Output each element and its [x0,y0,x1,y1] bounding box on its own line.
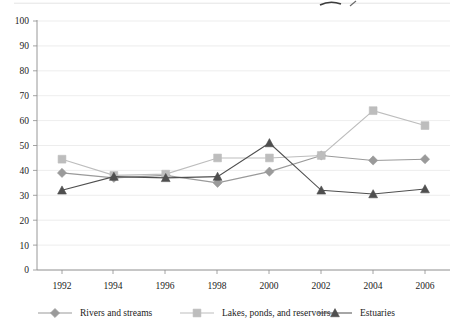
y-tick-label: 0 [24,265,29,275]
y-tick-label: 90 [20,41,30,51]
data-point-marker: Lakes, ponds, and reservoirs 2000: 45 [266,154,274,162]
y-tick-label: 40 [20,166,30,176]
x-tickmarks [62,270,425,274]
data-point-marker: Rivers and streams 1992: 39 [57,168,66,177]
x-tick-label: 1994 [104,281,123,291]
data-point-marker: Rivers and streams 2004: 44 [369,156,378,165]
y-gridlines [37,21,450,270]
y-tick-label: 80 [20,66,30,76]
data-point-marker: Estuaries 2006: 32.5 [421,185,430,193]
y-tick-label: 10 [20,241,30,251]
chart-container: 100 90 80 70 60 50 40 30 20 10 0 1992 19 [0,0,458,327]
data-point-marker: Lakes, ponds, and reservoirs 1992: 44.5 [58,155,66,163]
cropped-top-artifact [0,0,458,8]
x-tick-label: 2004 [364,281,383,291]
y-tickmarks [33,21,37,270]
series-rivers-and-streams: Rivers and streams 1992: 39Rivers and st… [57,151,429,188]
x-tick-label: 1996 [156,281,175,291]
x-tick-label: 1998 [208,281,227,291]
data-point-marker: Lakes, ponds, and reservoirs 1998: 45 [214,154,222,162]
data-point-marker: Lakes, ponds, and reservoirs 2006: 58 [421,122,429,130]
y-tick-label: 70 [20,91,30,101]
x-tick-label: 1992 [53,281,72,291]
series-estuaries: Estuaries 1992: 32Estuaries 1994: 37.5Es… [58,139,430,198]
data-point-marker: Rivers and streams 2000: 39.5 [265,167,274,176]
y-tick-label: 30 [20,191,30,201]
legend-marker-diamond-icon [50,308,59,317]
data-point-marker: Lakes, ponds, and reservoirs 2004: 64 [369,107,377,115]
y-tick-label: 60 [20,116,30,126]
series-lakes-ponds-and-reservoirs: Lakes, ponds, and reservoirs 1992: 44.5L… [58,107,429,180]
legend-label: Estuaries [360,308,395,318]
line-chart: 100 90 80 70 60 50 40 30 20 10 0 1992 19 [0,0,458,327]
x-tick-label: 2000 [260,281,279,291]
x-axis-labels: 1992 1994 1996 1998 2000 2002 2004 2006 [53,281,435,291]
series-line [62,143,425,194]
data-point-marker: Estuaries 2000: 51 [265,139,274,147]
legend-item-lakes-ponds-and-reservoirs[interactable]: Lakes, ponds, and reservoirs [180,308,331,318]
legend-item-rivers-and-streams[interactable]: Rivers and streams [38,308,153,318]
chart-legend: Rivers and streamsLakes, ponds, and rese… [38,308,395,318]
y-axis-labels: 100 90 80 70 60 50 40 30 20 10 0 [15,16,30,275]
y-tick-label: 20 [20,216,30,226]
legend-label: Rivers and streams [80,308,153,318]
chart-axes [37,20,450,270]
x-tick-label: 2002 [312,281,331,291]
y-tick-label: 50 [20,141,30,151]
data-point-marker: Rivers and streams 2006: 44.5 [420,155,429,164]
data-point-marker: Lakes, ponds, and reservoirs 2002: 46 [317,152,325,160]
legend-label: Lakes, ponds, and reservoirs [222,308,331,318]
legend-marker-square-icon [193,309,201,317]
y-tick-label: 100 [15,16,30,26]
x-tick-label: 2006 [416,281,435,291]
